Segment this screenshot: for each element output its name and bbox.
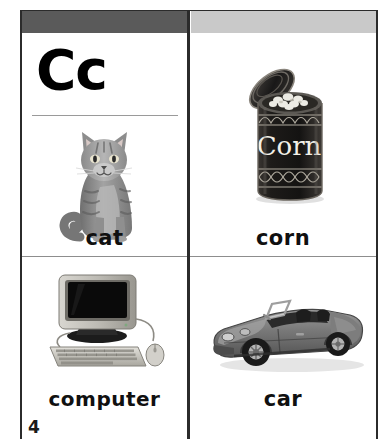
cell-computer[interactable]: computer 4	[22, 257, 187, 439]
letter-underline-rule	[32, 115, 178, 116]
computer-photo	[40, 271, 172, 376]
word-label-corn: corn	[190, 226, 376, 250]
word-label-cat: cat	[22, 226, 187, 250]
cell-cat[interactable]: Cc	[22, 33, 187, 256]
header-bar-right	[191, 11, 376, 33]
corn-can-photo: Corn	[232, 51, 342, 211]
vertical-divider	[187, 11, 190, 439]
car-photo	[204, 279, 374, 384]
word-label-car: car	[190, 387, 376, 411]
cell-car[interactable]: car	[190, 257, 376, 439]
header-bar-left	[22, 11, 188, 33]
flashcard-page: Cc	[20, 10, 378, 439]
page-number: 4	[28, 417, 40, 437]
word-label-computer: computer	[22, 387, 187, 411]
cell-corn[interactable]: Corn corn	[190, 33, 376, 256]
horizontal-divider	[22, 256, 376, 257]
letter-heading: Cc	[36, 39, 107, 101]
